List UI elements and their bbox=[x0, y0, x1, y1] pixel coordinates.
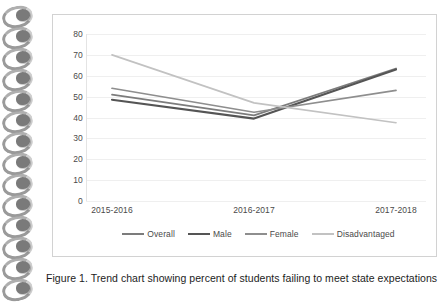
coil-knob bbox=[16, 135, 30, 147]
binding-coil bbox=[2, 6, 32, 25]
y-tick-label: 20 bbox=[59, 154, 83, 164]
coil-knob bbox=[16, 51, 30, 63]
binding-coil bbox=[2, 48, 32, 67]
x-tick-label: 2017-2018 bbox=[375, 205, 417, 215]
binding-coil bbox=[2, 174, 32, 193]
binding-coil bbox=[2, 216, 32, 235]
coil-knob bbox=[16, 261, 30, 273]
coil-knob bbox=[16, 177, 30, 189]
binding-coil bbox=[2, 258, 32, 277]
coil-knob bbox=[16, 9, 30, 21]
x-tick-label: 2015-2016 bbox=[91, 205, 133, 215]
y-tick-label: 50 bbox=[59, 92, 83, 102]
figure-1: 80706050403020100 2015-20162016-20172017… bbox=[52, 14, 442, 260]
binding-coil bbox=[2, 27, 32, 46]
coil-knob bbox=[16, 219, 30, 231]
binding-coil bbox=[2, 69, 32, 88]
legend-swatch-icon bbox=[188, 233, 210, 236]
y-tick-label: 80 bbox=[59, 29, 83, 39]
plot-area bbox=[86, 34, 426, 201]
binding-coil bbox=[2, 237, 32, 256]
y-tick-label: 70 bbox=[59, 50, 83, 60]
coil-knob bbox=[16, 114, 30, 126]
figure-caption: Figure 1. Trend chart showing percent of… bbox=[46, 272, 447, 284]
y-tick-label: 0 bbox=[59, 196, 83, 206]
series-line-male bbox=[112, 69, 396, 118]
y-tick-label: 30 bbox=[59, 133, 83, 143]
coil-knob bbox=[16, 198, 30, 210]
legend-swatch-icon bbox=[122, 233, 144, 235]
y-axis-labels: 80706050403020100 bbox=[57, 15, 83, 258]
series-line-overall bbox=[112, 68, 396, 115]
y-tick-label: 10 bbox=[59, 175, 83, 185]
legend-swatch-icon bbox=[312, 233, 334, 235]
coil-knob bbox=[16, 282, 30, 294]
legend-item-overall: Overall bbox=[122, 229, 175, 239]
legend-label: Male bbox=[213, 229, 232, 239]
chart-container: 80706050403020100 2015-20162016-20172017… bbox=[52, 14, 437, 257]
coil-knob bbox=[16, 93, 30, 105]
series-lines bbox=[86, 34, 426, 201]
legend-label: Disadvantaged bbox=[337, 229, 395, 239]
coil-knob bbox=[16, 72, 30, 84]
binding-coil bbox=[2, 132, 32, 151]
binding-coil bbox=[2, 279, 32, 298]
binding-coil bbox=[2, 153, 32, 172]
chart-legend: OverallMaleFemaleDisadvantaged bbox=[86, 227, 431, 241]
y-tick-label: 60 bbox=[59, 71, 83, 81]
legend-label: Overall bbox=[147, 229, 175, 239]
coil-knob bbox=[16, 240, 30, 252]
legend-item-male: Male bbox=[188, 229, 232, 239]
y-tick-label: 40 bbox=[59, 113, 83, 123]
binding-coil bbox=[2, 111, 32, 130]
legend-label: Female bbox=[270, 229, 299, 239]
coil-knob bbox=[16, 156, 30, 168]
binding-coil bbox=[2, 90, 32, 109]
legend-swatch-icon bbox=[245, 233, 267, 235]
coil-knob bbox=[16, 30, 30, 42]
legend-item-female: Female bbox=[245, 229, 299, 239]
legend-item-disadvantaged: Disadvantaged bbox=[312, 229, 395, 239]
binding-coil bbox=[2, 195, 32, 214]
scan-artifact-text bbox=[40, 0, 340, 12]
x-tick-label: 2016-2017 bbox=[233, 205, 275, 215]
x-axis-labels: 2015-20162016-20172017-2018 bbox=[86, 205, 426, 219]
spiral-binding bbox=[0, 0, 40, 304]
gridline bbox=[86, 201, 426, 202]
